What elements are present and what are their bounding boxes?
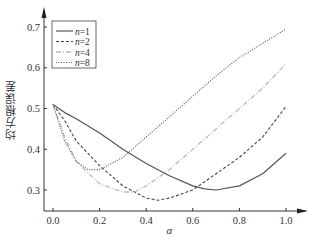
series-line-n-4 <box>53 64 286 192</box>
y-tick-label: 0.3 <box>27 185 40 196</box>
legend-label: n=1 <box>75 27 90 37</box>
y-tick-label: 0.5 <box>27 103 40 114</box>
y-axis-arrow-icon <box>42 7 47 18</box>
x-tick-label: 0.6 <box>186 215 199 226</box>
x-tick-label: 0.4 <box>140 215 154 226</box>
legend-label: n=8 <box>75 58 90 68</box>
legend-label: n=2 <box>75 37 90 47</box>
y-axis-label: 均方根误差 <box>4 80 18 140</box>
y-tick-label: 0.4 <box>27 144 41 155</box>
x-tick-label: 0.2 <box>93 215 106 226</box>
x-tick-label: 0.0 <box>46 215 59 226</box>
legend-label: n=4 <box>75 48 90 58</box>
x-tick-label: 0.8 <box>233 215 246 226</box>
x-axis-label: α <box>167 224 173 236</box>
y-tick-label: 0.6 <box>27 62 40 73</box>
y-tick-label: 0.7 <box>27 22 40 33</box>
x-axis-arrow-icon <box>297 209 308 214</box>
x-tick-label: 1.0 <box>279 215 292 226</box>
line-chart: 0.00.20.40.60.81.00.30.40.50.60.7α n=1n=… <box>0 0 312 242</box>
series-line-n-2 <box>53 104 286 200</box>
legend: n=1n=2n=4n=8 <box>52 21 96 68</box>
